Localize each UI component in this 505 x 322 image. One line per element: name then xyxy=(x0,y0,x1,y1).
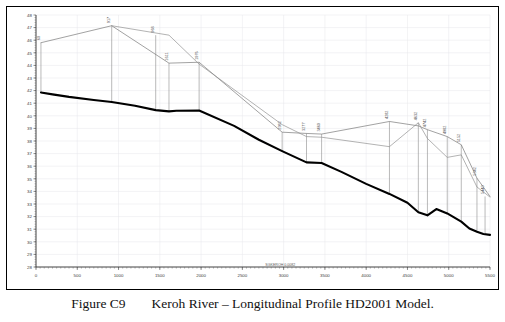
y-axis-tick-label: 48 xyxy=(27,13,32,18)
cross-section-label: 4632 xyxy=(414,112,418,120)
y-axis-tick-label: 31 xyxy=(27,227,32,232)
y-axis-tick-label: 44 xyxy=(27,63,32,68)
y-axis-tick-label: 47 xyxy=(27,25,32,30)
cross-section-label: 60 xyxy=(37,36,41,40)
y-axis-tick-label: 45 xyxy=(27,51,32,56)
y-axis-tick-label: 28 xyxy=(27,265,32,270)
y-axis-tick-label: 34 xyxy=(27,189,32,194)
x-axis-tick-label: 1500 xyxy=(155,273,165,278)
cross-section-label: 968 xyxy=(151,26,155,32)
y-axis-tick-label: 41 xyxy=(27,101,32,106)
cross-section-label: 4742 xyxy=(423,119,427,127)
cross-section-label: 917 xyxy=(107,17,111,23)
x-axis-tick-label: 500 xyxy=(74,273,82,278)
cross-section-label: 3277 xyxy=(302,122,306,130)
cross-section-label: 5152 xyxy=(457,134,461,142)
y-axis-tick-label: 39 xyxy=(27,126,32,131)
x-axis-tick-label: 5500 xyxy=(485,273,495,278)
y-axis-tick-label: 32 xyxy=(27,214,32,219)
y-axis-tick-label: 33 xyxy=(27,202,32,207)
x-axis-tick-label: 0 xyxy=(35,273,38,278)
y-axis-tick-label: 35 xyxy=(27,177,32,182)
x-axis-label: SGKEROH 0.0082 xyxy=(265,263,295,267)
y-axis-tick-label: 37 xyxy=(27,151,32,156)
y-axis-tick-label: 29 xyxy=(27,252,32,257)
chart-plot-area: 2829303132333435363738394041424344454647… xyxy=(6,6,499,290)
y-axis-tick-label: 43 xyxy=(27,76,32,81)
y-axis-tick-label: 30 xyxy=(27,240,32,245)
y-axis-tick-label: 38 xyxy=(27,139,32,144)
caption-number: Figure C9 xyxy=(71,296,125,311)
cross-section-label: 3460 xyxy=(317,123,321,131)
cross-section-label: 1611 xyxy=(165,52,169,60)
x-axis-tick-label: 2500 xyxy=(237,273,247,278)
y-axis-tick-label: 36 xyxy=(27,164,32,169)
cross-section-label: 4282 xyxy=(385,111,389,119)
x-axis-tick-label: 5000 xyxy=(444,273,454,278)
x-axis-tick-label: 1000 xyxy=(114,273,124,278)
cross-section-label: 5342 xyxy=(473,167,477,175)
figure-container: 2829303132333435363738394041424344454647… xyxy=(0,0,505,322)
cross-section-label: 1976 xyxy=(195,51,199,59)
x-axis-tick-label: 3500 xyxy=(320,273,330,278)
cross-section-label: 2982 xyxy=(278,121,282,129)
x-axis-tick-label: 3000 xyxy=(279,273,289,278)
longitudinal-profile-chart: 2829303132333435363738394041424344454647… xyxy=(7,7,498,289)
y-axis-tick-label: 40 xyxy=(27,114,32,119)
cross-section-label: 4982 xyxy=(443,126,447,134)
x-axis-tick-label: 4500 xyxy=(403,273,413,278)
x-axis-tick-label: 2000 xyxy=(196,273,206,278)
y-axis-tick-label: 46 xyxy=(27,38,32,43)
figure-caption: Figure C9Keroh River – Longitudinal Prof… xyxy=(0,296,505,312)
x-axis-tick-label: 4000 xyxy=(361,273,371,278)
y-axis-tick-label: 42 xyxy=(27,88,32,93)
caption-title: Keroh River – Longitudinal Profile HD200… xyxy=(152,296,434,311)
